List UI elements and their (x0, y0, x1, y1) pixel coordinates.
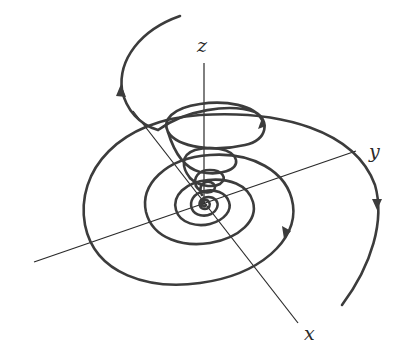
x-axis-label: x (304, 324, 315, 343)
arrow-icon (372, 199, 382, 210)
y-axis-label: y (369, 142, 380, 161)
x-axis (133, 111, 298, 323)
arrow-icon (116, 84, 126, 97)
planar-spiral (84, 114, 379, 305)
helix-spiral (122, 16, 265, 195)
z-axis-label: z (197, 36, 207, 55)
